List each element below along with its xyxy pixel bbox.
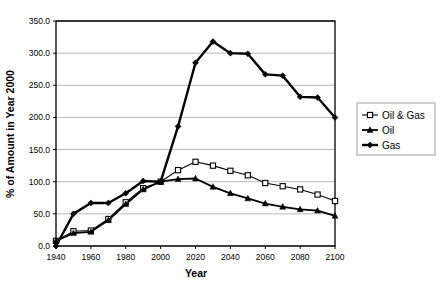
- x-tick-label: 2080: [291, 252, 310, 262]
- data-point-marker: [315, 192, 320, 197]
- x-tick-label: 1960: [81, 252, 100, 262]
- data-point-marker: [193, 159, 198, 164]
- legend-label: Gas: [382, 140, 400, 151]
- data-point-marker: [332, 198, 337, 203]
- x-tick-labels: 194019601980200020202040206020802100: [47, 252, 345, 262]
- plot-frame: [56, 21, 335, 246]
- x-tick-label: 1940: [47, 252, 66, 262]
- x-tick-label: 2020: [186, 252, 205, 262]
- data-point-marker: [175, 123, 181, 129]
- y-tick-label: 250.0: [29, 80, 51, 90]
- y-tick-label: 0.0: [38, 241, 50, 251]
- legend-label: Oil: [382, 125, 394, 136]
- x-tick-label: 2100: [326, 252, 345, 262]
- gridlines: [56, 21, 335, 214]
- data-series-layer: [53, 39, 338, 249]
- series-oil: [53, 175, 338, 243]
- y-tick-label: 150.0: [29, 145, 51, 155]
- y-tick-labels: 0.050.0100.0150.0200.0250.0300.0350.0: [29, 16, 51, 251]
- series-gas: [53, 39, 338, 249]
- data-point-marker: [210, 163, 215, 168]
- x-tick-label: 2000: [151, 252, 170, 262]
- x-tick-label: 1980: [116, 252, 135, 262]
- series-line: [56, 162, 335, 241]
- x-tick-label: 2060: [256, 252, 275, 262]
- axis-frame: [56, 21, 335, 246]
- y-tick-label: 50.0: [33, 209, 50, 219]
- series-oil-gas: [53, 159, 337, 243]
- data-point-marker: [263, 180, 268, 185]
- y-tick-label: 350.0: [29, 16, 51, 26]
- legend-label: Oil & Gas: [382, 110, 425, 121]
- x-tick-label: 2040: [221, 252, 240, 262]
- y-axis-title: % of Amount in Year 2000: [4, 70, 16, 198]
- legend-marker: [367, 112, 372, 117]
- line-chart: 0.050.0100.0150.0200.0250.0300.0350.0 19…: [0, 0, 442, 288]
- chart-figure: 0.050.0100.0150.0200.0250.0300.0350.0 19…: [0, 0, 442, 288]
- series-line: [56, 42, 335, 246]
- data-point-marker: [228, 168, 233, 173]
- chart-legend[interactable]: Oil & GasOilGas: [357, 103, 435, 155]
- x-axis-title: Year: [185, 267, 207, 279]
- y-tick-label: 300.0: [29, 48, 51, 58]
- data-point-marker: [245, 173, 250, 178]
- y-tick-label: 200.0: [29, 112, 51, 122]
- y-tick-label: 100.0: [29, 177, 51, 187]
- data-point-marker: [298, 187, 303, 192]
- data-point-marker: [175, 168, 180, 173]
- data-point-marker: [280, 184, 285, 189]
